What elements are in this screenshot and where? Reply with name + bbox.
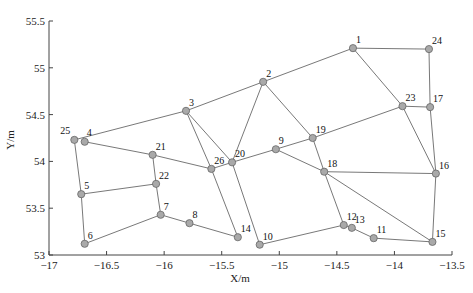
edge-1-23 bbox=[353, 48, 403, 106]
node-label-24: 24 bbox=[432, 35, 442, 46]
node-25 bbox=[71, 136, 78, 143]
node-10 bbox=[256, 241, 263, 248]
node-label-25: 25 bbox=[60, 125, 70, 136]
node-label-16: 16 bbox=[439, 160, 449, 171]
node-19 bbox=[309, 134, 316, 141]
node-label-17: 17 bbox=[433, 93, 443, 104]
edge-24-17 bbox=[429, 49, 430, 107]
node-17 bbox=[427, 104, 434, 111]
node-15 bbox=[429, 238, 436, 245]
edge-3-2 bbox=[186, 82, 263, 111]
x-tick-label: −16 bbox=[156, 259, 174, 271]
node-label-10: 10 bbox=[263, 231, 273, 242]
node-label-8: 8 bbox=[192, 209, 197, 220]
edge-11-15 bbox=[374, 238, 433, 242]
node-label-2: 2 bbox=[266, 68, 271, 79]
x-axis-title: X/m bbox=[230, 272, 250, 284]
edge-5-6 bbox=[81, 194, 84, 244]
node-7 bbox=[157, 211, 164, 218]
node-21 bbox=[149, 151, 156, 158]
edge-23-17 bbox=[402, 106, 430, 107]
node-label-19: 19 bbox=[316, 124, 326, 135]
node-8 bbox=[186, 220, 193, 227]
edge-1-24 bbox=[353, 48, 429, 49]
node-16 bbox=[432, 170, 439, 177]
edge-18-12 bbox=[324, 172, 344, 225]
node-label-6: 6 bbox=[88, 230, 93, 241]
node-18 bbox=[321, 168, 328, 175]
edge-25-5 bbox=[74, 140, 81, 194]
y-tick-label: 54.5 bbox=[26, 109, 46, 121]
y-tick-label: 54 bbox=[34, 155, 46, 167]
edges-layer bbox=[74, 48, 436, 245]
node-label-26: 26 bbox=[214, 155, 224, 166]
edge-19-23 bbox=[313, 106, 403, 138]
node-2 bbox=[260, 78, 267, 85]
node-label-22: 22 bbox=[159, 170, 169, 181]
y-tick-label: 53.5 bbox=[26, 202, 46, 214]
node-label-21: 21 bbox=[156, 141, 166, 152]
edge-2-19 bbox=[263, 82, 313, 138]
node-label-5: 5 bbox=[84, 180, 89, 191]
network-chart: 1234567891011121314151617181920212223242… bbox=[0, 0, 473, 293]
node-9 bbox=[272, 146, 279, 153]
node-label-4: 4 bbox=[87, 127, 92, 138]
y-tick-label: 55.5 bbox=[26, 15, 46, 27]
x-tick-label: −15.5 bbox=[209, 259, 235, 271]
y-axis-title: Y/m bbox=[4, 130, 16, 150]
edge-6-7 bbox=[85, 215, 161, 244]
node-3 bbox=[182, 107, 189, 114]
x-ticks: −17−16.5−16−15.5−15−14.5−14−13.5 bbox=[40, 251, 465, 271]
nodes-layer: 1234567891011121314151617181920212223242… bbox=[60, 34, 449, 248]
node-label-18: 18 bbox=[327, 158, 337, 169]
node-1 bbox=[349, 45, 356, 52]
edge-22-5 bbox=[81, 184, 156, 194]
x-tick-label: −13.5 bbox=[439, 259, 465, 271]
node-label-15: 15 bbox=[435, 228, 445, 239]
x-tick-label: −15 bbox=[271, 259, 289, 271]
edge-21-22 bbox=[153, 155, 156, 184]
y-tick-label: 53 bbox=[34, 249, 46, 261]
node-label-9: 9 bbox=[279, 135, 284, 146]
node-14 bbox=[234, 234, 241, 241]
edge-9-18 bbox=[276, 149, 324, 171]
edge-21-26 bbox=[153, 155, 212, 169]
node-label-20: 20 bbox=[235, 148, 245, 159]
node-13 bbox=[348, 224, 355, 231]
edge-7-8 bbox=[161, 215, 190, 223]
edge-19-18 bbox=[313, 138, 325, 172]
node-12 bbox=[340, 221, 347, 228]
node-label-7: 7 bbox=[164, 201, 169, 212]
edge-3-20 bbox=[186, 111, 232, 162]
x-tick-label: −14 bbox=[386, 259, 404, 271]
x-tick-label: −14.5 bbox=[324, 259, 350, 271]
node-5 bbox=[78, 191, 85, 198]
x-tick-label: −16.5 bbox=[94, 259, 120, 271]
node-22 bbox=[152, 180, 159, 187]
node-11 bbox=[370, 235, 377, 242]
edge-22-7 bbox=[156, 184, 161, 215]
node-26 bbox=[208, 165, 215, 172]
node-label-23: 23 bbox=[405, 92, 415, 103]
node-label-1: 1 bbox=[356, 34, 361, 45]
node-23 bbox=[399, 103, 406, 110]
y-tick-label: 55 bbox=[34, 62, 46, 74]
node-4 bbox=[81, 138, 88, 145]
node-24 bbox=[425, 45, 432, 52]
node-label-13: 13 bbox=[355, 214, 365, 225]
edge-26-14 bbox=[211, 169, 237, 237]
edge-2-1 bbox=[263, 48, 353, 82]
node-6 bbox=[81, 240, 88, 247]
edge-4-21 bbox=[85, 142, 153, 155]
node-label-11: 11 bbox=[377, 224, 387, 235]
node-20 bbox=[228, 159, 235, 166]
edge-8-14 bbox=[189, 223, 237, 237]
edge-3-26 bbox=[186, 111, 211, 169]
edge-18-16 bbox=[324, 172, 436, 174]
node-label-3: 3 bbox=[189, 97, 194, 108]
node-label-14: 14 bbox=[241, 223, 251, 234]
